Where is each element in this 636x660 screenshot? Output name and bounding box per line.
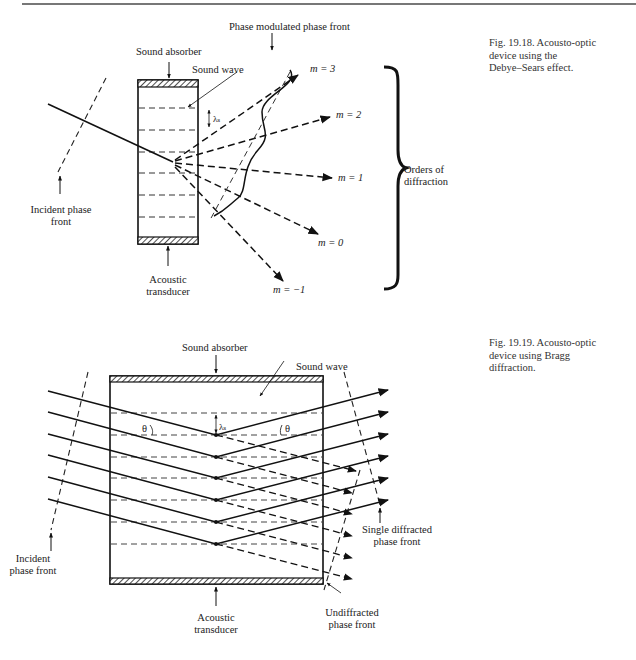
acousto-optic-cell [138, 80, 198, 244]
fig-19-19-diagram [48, 355, 388, 606]
sound-absorber-block [138, 80, 198, 87]
diagram-canvas [0, 0, 636, 660]
label-order-m0: m = 0 [318, 237, 343, 249]
label-order-m1: m = 1 [338, 172, 363, 184]
undiffracted-front [324, 470, 360, 590]
label-sound-wave: Sound wave [192, 64, 244, 76]
bragg-beams [48, 390, 388, 544]
label-lambda-s-2: λₛ [219, 421, 226, 433]
incident-phase-front [58, 78, 106, 172]
sound-absorber-block-2 [110, 376, 323, 382]
label-acoustic-transducer: Acoustic transducer [138, 274, 198, 298]
label-theta-right: θ [285, 423, 290, 435]
label-order-m2: m = 2 [336, 109, 361, 121]
sound-wavefronts [139, 108, 197, 217]
label-single-diffracted-front: Single diffracted phase front [357, 524, 437, 548]
orders-brace [384, 67, 406, 289]
transducer-block-2 [110, 578, 323, 584]
transducer-block [138, 237, 198, 244]
label-orders-of-diffraction: Orders of diffraction [404, 164, 448, 188]
incident-beam [48, 104, 173, 162]
label-order-m3: m = 3 [310, 63, 335, 75]
label-phase-modulated-front: Phase modulated phase front [229, 21, 350, 33]
label-acoustic-transducer-2: Acoustic transducer [186, 612, 246, 636]
label-theta-left: θ [142, 423, 147, 435]
incident-phase-front-2 [51, 372, 88, 530]
label-order-m-minus1: m = −1 [273, 284, 305, 296]
label-sound-absorber: Sound absorber [136, 46, 202, 58]
label-sound-wave-2: Sound wave [296, 361, 348, 373]
label-lambda-s: λₛ [213, 113, 220, 125]
label-sound-absorber-2: Sound absorber [182, 342, 248, 354]
fig-19-19-caption: Fig. 19.19. Acousto-optic device using B… [489, 337, 629, 375]
label-incident-front: Incident phase front [25, 204, 97, 228]
fig-19-18-caption: Fig. 19.18. Acousto-optic device using t… [489, 37, 629, 75]
label-incident-front-2: Incident phase front [2, 553, 64, 577]
phase-modulated-front [214, 70, 292, 216]
label-undiffracted-front: Undiffracted phase front [319, 607, 385, 631]
